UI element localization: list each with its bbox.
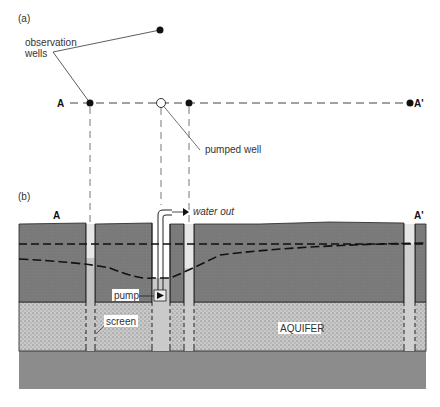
observation-well-icon: [87, 100, 94, 107]
observation-well-icon: [157, 27, 164, 34]
observation-wells-label-2: wells: [24, 48, 47, 59]
leader-line: [53, 52, 90, 103]
confining-layer: [194, 222, 404, 302]
aquifer-layer: [19, 302, 426, 351]
aquifer-label: AQUIFER: [280, 323, 324, 334]
pumping-test-diagram: (a) observation wells A A' pumped well (…: [0, 0, 440, 407]
well-water: [152, 278, 170, 351]
confining-layer: [170, 224, 184, 302]
bedrock-layer: [19, 351, 426, 389]
observation-wells-label: observation: [25, 37, 77, 48]
panel-a-plan-view: (a) observation wells A A' pumped well: [18, 13, 424, 225]
well-water: [184, 268, 194, 351]
section-start-label: A: [53, 210, 60, 221]
observation-well-icon: [407, 100, 414, 107]
panel-b-label: (b): [18, 191, 30, 202]
section-end-label: A': [414, 98, 424, 109]
observation-well-icon: [186, 100, 193, 107]
section-end-label: A': [414, 210, 424, 221]
screen-label: screen: [106, 316, 136, 327]
leader-line: [161, 103, 200, 150]
panel-b-cross-section: (b) A A': [18, 191, 426, 389]
panel-a-label: (a): [18, 13, 30, 24]
well-water: [404, 244, 415, 351]
water-out-label: water out: [193, 206, 235, 217]
pumped-well-label: pumped well: [205, 144, 261, 155]
pump-label: pump: [114, 290, 139, 301]
pumped-well-icon: [157, 99, 166, 108]
section-start-label: A: [57, 98, 64, 109]
arrow-right-icon: [183, 208, 189, 216]
well-water: [86, 258, 95, 351]
confining-layer: [415, 224, 426, 302]
